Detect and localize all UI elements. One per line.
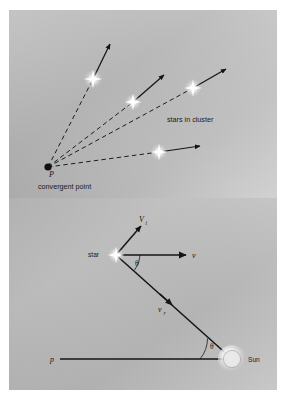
star-label: star [88, 251, 100, 258]
sun-label: Sun [248, 356, 260, 363]
velocity-components-panel: star Sun V t v v r p θ θ [9, 198, 277, 390]
convergent-point-label: convergent point [38, 182, 91, 191]
parallax-baseline-label: p [49, 355, 54, 364]
sun-marker [218, 345, 246, 373]
convergent-point-symbol: P [48, 170, 54, 179]
convergent-point-panel: P convergent point stars in cluster [9, 10, 277, 198]
space-velocity-label: v [192, 251, 196, 260]
astronomy-figure: P convergent point stars in cluster [0, 0, 286, 407]
figure-canvas: P convergent point stars in cluster [0, 0, 286, 407]
angle-label-at-star: θ [135, 259, 139, 268]
angle-label-at-sun: θ [210, 342, 214, 351]
stars-in-cluster-label: stars in cluster [167, 115, 214, 124]
radial-velocity-symbol: v [158, 305, 162, 314]
